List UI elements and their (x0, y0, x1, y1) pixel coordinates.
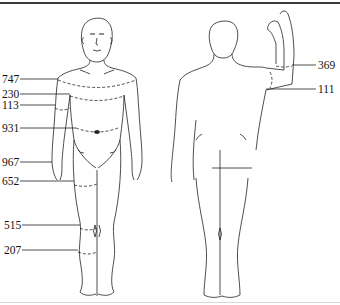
label-wrist: 967 (2, 156, 19, 168)
leader-lines (20, 65, 316, 250)
label-calf: 207 (4, 244, 21, 256)
label-waist: 931 (2, 122, 19, 134)
label-knee: 515 (4, 219, 21, 231)
label-elbow: 111 (318, 83, 334, 95)
figures (0, 0, 340, 305)
body-diagram: 747 230 113 931 967 652 515 207 369 111 (0, 0, 340, 305)
label-thigh: 652 (2, 175, 19, 187)
label-upper-arm: 113 (2, 99, 19, 111)
label-forearm: 369 (318, 59, 335, 71)
label-chest: 747 (2, 73, 19, 85)
front-figure (52, 18, 142, 296)
back-figure (171, 11, 294, 297)
